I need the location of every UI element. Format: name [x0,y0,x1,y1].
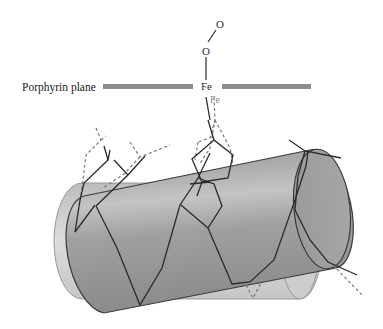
porphyrin-plane-label: Porphyrin plane [22,81,96,94]
fe-unbound-label: Fe [210,94,221,105]
oxygen-2-label: O [216,18,224,30]
oxygen-1-label: O [202,45,210,57]
porphyrin-plane-left-bar [103,84,193,89]
fe-bound-label: Fe [201,80,212,92]
porphyrin-plane-right-bar [222,84,311,89]
heme-helix-diagram: Porphyrin plane Fe Fe O O [0,0,383,329]
